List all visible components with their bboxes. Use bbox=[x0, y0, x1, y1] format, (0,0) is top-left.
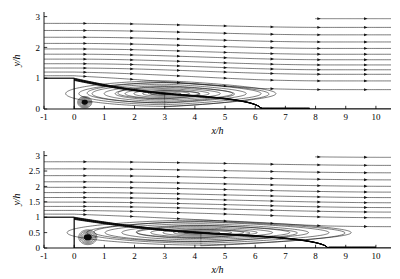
svg-text:-1: -1 bbox=[40, 251, 48, 261]
svg-text:0: 0 bbox=[36, 243, 41, 253]
streamline-figure: -10123456789100123x/hy/h -10123456789100… bbox=[0, 0, 400, 279]
svg-text:2: 2 bbox=[132, 251, 137, 261]
svg-text:2.5: 2.5 bbox=[29, 166, 41, 176]
svg-text:7: 7 bbox=[283, 251, 288, 261]
svg-text:9: 9 bbox=[343, 112, 348, 122]
top-ylabel: y/h bbox=[11, 54, 22, 67]
svg-text:1.5: 1.5 bbox=[29, 197, 41, 207]
svg-text:1: 1 bbox=[102, 112, 107, 122]
svg-text:10: 10 bbox=[371, 112, 381, 122]
bottom-xlabel: x/h bbox=[210, 264, 223, 275]
svg-text:0.5: 0.5 bbox=[29, 228, 41, 238]
plot-panel-top: -10123456789100123x/hy/h bbox=[0, 0, 400, 139]
svg-text:2: 2 bbox=[36, 182, 41, 192]
svg-text:3: 3 bbox=[36, 12, 41, 22]
svg-text:0: 0 bbox=[72, 251, 77, 261]
top-xlabel: x/h bbox=[210, 125, 223, 136]
svg-text:8: 8 bbox=[313, 251, 318, 261]
svg-text:8: 8 bbox=[313, 112, 318, 122]
bottom-streamlines bbox=[44, 155, 391, 248]
svg-text:3: 3 bbox=[162, 251, 167, 261]
top-canvas: -10123456789100123x/hy/h bbox=[0, 0, 400, 139]
top-streamlines bbox=[44, 17, 391, 109]
bottom-ticks: -101234567891000.511.522.53 bbox=[29, 151, 381, 261]
svg-text:4: 4 bbox=[193, 112, 198, 122]
svg-text:0: 0 bbox=[36, 104, 41, 114]
svg-text:0: 0 bbox=[72, 112, 77, 122]
top-axes bbox=[44, 12, 391, 109]
svg-text:10: 10 bbox=[371, 251, 381, 261]
svg-text:9: 9 bbox=[343, 251, 348, 261]
svg-text:4: 4 bbox=[193, 251, 198, 261]
svg-text:7: 7 bbox=[283, 112, 288, 122]
plot-panel-bottom: -101234567891000.511.522.53x/hy/h bbox=[0, 139, 400, 278]
svg-text:-1: -1 bbox=[40, 112, 48, 122]
svg-text:3: 3 bbox=[36, 151, 41, 161]
svg-text:2: 2 bbox=[36, 43, 41, 53]
svg-text:2: 2 bbox=[132, 112, 137, 122]
svg-text:3: 3 bbox=[162, 112, 167, 122]
svg-text:6: 6 bbox=[253, 251, 258, 261]
svg-text:1: 1 bbox=[102, 251, 107, 261]
svg-text:5: 5 bbox=[223, 112, 228, 122]
svg-text:6: 6 bbox=[253, 112, 258, 122]
bottom-ylabel: y/h bbox=[11, 193, 22, 206]
bottom-canvas: -101234567891000.511.522.53x/hy/h bbox=[0, 139, 400, 278]
svg-text:5: 5 bbox=[223, 251, 228, 261]
svg-text:1: 1 bbox=[36, 212, 41, 222]
svg-text:1: 1 bbox=[36, 73, 41, 83]
